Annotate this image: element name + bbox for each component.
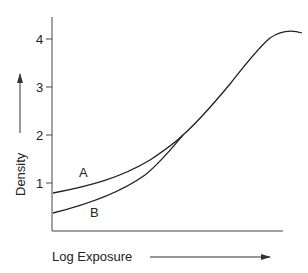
y-tick-label-3: 3 xyxy=(36,80,43,95)
characteristic-curve-chart: 1 2 3 4 A B Density Log Exposure xyxy=(0,0,308,273)
y-axis-title: Density xyxy=(13,152,28,196)
curve-a-label: A xyxy=(79,165,88,180)
y-tick-label-1: 1 xyxy=(36,176,43,191)
y-ticks xyxy=(46,39,52,183)
y-tick-label-2: 2 xyxy=(36,128,43,143)
y-tick-label-4: 4 xyxy=(36,32,43,47)
curve-b xyxy=(53,135,183,213)
curve-a xyxy=(53,31,302,193)
x-axis-title: Log Exposure xyxy=(52,249,132,264)
curve-b-label: B xyxy=(90,205,99,220)
